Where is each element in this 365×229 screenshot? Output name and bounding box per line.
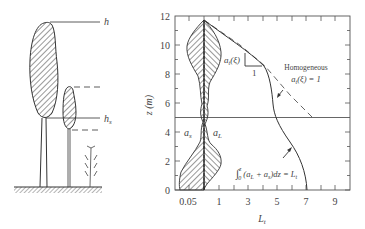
x-tick-labels: 0.05 1 3 5 7 9	[179, 196, 337, 207]
small-tree-trunk	[68, 129, 70, 187]
svg-text:0.05: 0.05	[179, 196, 197, 207]
al-label: aL	[213, 127, 222, 140]
small-tree-crown	[63, 87, 76, 129]
al-density-shape	[204, 20, 221, 190]
h-label: h	[104, 16, 109, 27]
integral-equation: ∫z0(aL + as)dz = Lt	[235, 166, 298, 181]
svg-text:2: 2	[165, 156, 170, 167]
x-axis-title: Lt	[257, 213, 267, 226]
svg-text:6: 6	[165, 98, 170, 109]
slope-label: at(ξ)	[224, 55, 240, 66]
svg-text:8: 8	[165, 69, 170, 80]
ground-hatch	[14, 187, 102, 193]
canopy-figure: h hs	[0, 0, 365, 229]
svg-text:5: 5	[275, 196, 280, 207]
y-axis-title: z (m)	[143, 94, 155, 116]
slope-run-label: 1	[252, 68, 257, 78]
svg-text:9: 9	[333, 196, 338, 207]
slope-triangle	[245, 53, 262, 66]
svg-text:3: 3	[246, 196, 251, 207]
tall-tree-crown	[30, 22, 58, 117]
tall-tree-trunk	[40, 118, 47, 187]
hs-label: hs	[104, 113, 112, 126]
y-tick-labels: 0 2 4 6 8 10 12	[160, 11, 170, 196]
shrub-icon	[85, 146, 97, 187]
as-density-shape	[179, 20, 204, 190]
canopy-sketch: h hs	[14, 16, 112, 193]
as-label: as	[184, 127, 192, 140]
svg-text:10: 10	[160, 40, 170, 51]
svg-text:1: 1	[217, 196, 222, 207]
homogeneous-title: Homogeneous	[284, 63, 327, 72]
homogeneous-equation: at(ξ) = 1	[291, 74, 320, 85]
svg-text:0: 0	[165, 185, 170, 196]
svg-text:7: 7	[304, 196, 309, 207]
integral-arrowhead	[287, 147, 292, 152]
svg-text:12: 12	[160, 11, 170, 22]
svg-text:4: 4	[165, 127, 170, 138]
lt-profile-chart: 0 2 4 6 8 10 12 z (m) 0.05 1 3 5 7 9 Lt	[143, 11, 350, 226]
